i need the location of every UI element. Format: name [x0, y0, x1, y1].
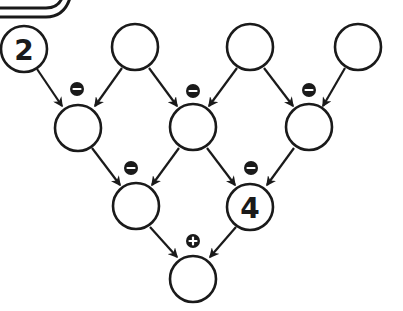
node-r4n1[interactable] [170, 256, 216, 302]
node-r1n2[interactable] [112, 24, 158, 70]
node-value: 4 [240, 192, 259, 225]
minus-icon [186, 84, 200, 98]
edge-r1n2-r2n1 [95, 68, 122, 106]
node-r1n3[interactable] [227, 24, 273, 70]
node-r1n4[interactable] [335, 24, 381, 70]
edge-r2n3-r3n2 [267, 148, 294, 185]
node-r2n2[interactable] [170, 104, 216, 150]
edge-r1n2-r2n2 [149, 68, 177, 106]
node-r2n1[interactable] [55, 105, 101, 151]
edge-r2n2-r3n2 [207, 148, 235, 185]
edge-r2n2-r3n1 [152, 148, 179, 185]
node-r3n1[interactable] [113, 183, 159, 229]
edge-r2n1-r3n1 [92, 148, 120, 185]
minus-icon [302, 83, 316, 97]
edge-r3n1-r4n1 [150, 227, 177, 257]
node-r3n2[interactable]: 4 [227, 184, 273, 230]
node-r1n1[interactable]: 2 [1, 26, 47, 72]
edge-r1n1-r2n1 [37, 69, 62, 106]
node-r2n3[interactable] [286, 104, 332, 150]
frame-corner [0, 0, 70, 17]
edge-r1n4-r2n3 [323, 68, 345, 106]
edge-r1n3-r2n2 [209, 68, 237, 106]
edge-r1n3-r2n3 [264, 68, 293, 106]
minus-icon [244, 161, 258, 175]
pyramid-diagram: 2 4 [0, 0, 403, 311]
edge-r3n2-r4n1 [210, 227, 236, 257]
minus-icon [70, 82, 84, 96]
node-value: 2 [14, 34, 33, 67]
minus-icon [124, 161, 138, 175]
plus-icon [186, 234, 200, 248]
